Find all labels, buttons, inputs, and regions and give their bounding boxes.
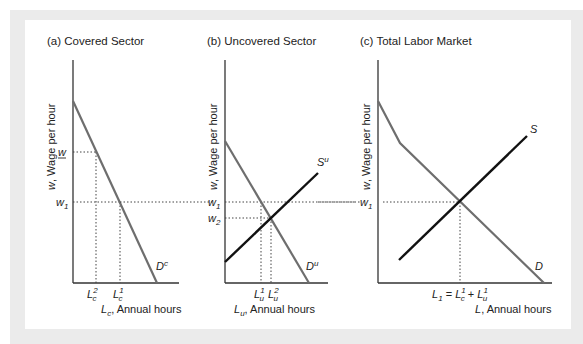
panel-b-lu2-label: L2u xyxy=(268,286,279,303)
panel-c-y-axis-label: w, Wage per hour xyxy=(360,103,372,190)
panel-b-x-axis-label: Lu, Annual hours xyxy=(234,303,315,318)
panel-a-title: (a) Covered Sector xyxy=(47,35,144,47)
panel-total-labor-market: (c) Total Labor Market w, Wage per hour … xyxy=(360,35,552,315)
panel-c-demand-label: D xyxy=(535,260,543,272)
panel-b-supply-curve xyxy=(225,173,318,262)
panel-b-title: (b) Uncovered Sector xyxy=(207,35,316,47)
panel-b-demand-label: Du xyxy=(306,259,319,272)
panel-a-min-wage-label: w xyxy=(58,146,67,158)
panel-covered-sector: (a) Covered Sector w, Wage per hour w w1… xyxy=(45,35,182,318)
panel-c-title: (c) Total Labor Market xyxy=(360,35,472,47)
panel-b-supply-label: Su xyxy=(317,155,329,168)
labor-market-diagram: (a) Covered Sector w, Wage per hour w w1… xyxy=(0,0,583,344)
panel-a-demand-label: Dc xyxy=(156,259,168,272)
panel-c-supply-label: S xyxy=(530,123,538,135)
panel-b-w2-label: w2 xyxy=(208,212,221,227)
panel-c-w1-label: w1 xyxy=(360,196,372,211)
panel-a-x-axis-label: Lc, Annual hours xyxy=(101,303,182,318)
panel-a-lc1-label: L1c xyxy=(113,286,124,303)
panel-a-w1-label: w1 xyxy=(56,196,68,211)
panel-a-demand-curve xyxy=(73,101,157,283)
panel-c-supply-curve xyxy=(399,136,527,260)
panel-c-x-axis-label: L, Annual hours xyxy=(475,303,552,315)
panel-uncovered-sector: (b) Uncovered Sector w, Wage per hour w1… xyxy=(207,35,360,318)
panel-b-lu1-label: L1u xyxy=(254,286,265,303)
panel-b-y-axis-label: w, Wage per hour xyxy=(207,103,219,190)
panel-c-l1-label: L1 = L1c + L1u xyxy=(432,286,488,303)
panel-a-lc2-label: L2c xyxy=(87,286,98,303)
panel-a-y-axis-label: w, Wage per hour xyxy=(45,103,57,190)
panel-b-demand-curve xyxy=(225,141,309,283)
panel-b-w1-label: w1 xyxy=(208,196,220,211)
